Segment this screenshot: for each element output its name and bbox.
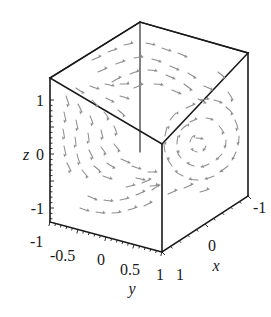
y-tick-label-minus1: -1	[30, 233, 43, 250]
vector-arrows-front-lower	[132, 166, 158, 186]
y-tick-label-0: 0	[97, 251, 105, 268]
x-tick-label-1: 1	[176, 266, 184, 283]
x-tick-label-0: 0	[208, 237, 216, 254]
z-tick-label-1: 1	[36, 92, 44, 109]
cube-vertical-edges	[50, 53, 248, 252]
y-tick-label-05: 0.5	[120, 261, 140, 278]
x-tick-label-minus1: -1	[253, 199, 266, 216]
edge-top-face-outline	[50, 22, 248, 144]
z-tick-label-0: 0	[36, 146, 44, 163]
z-tick-label-minus1: -1	[31, 200, 44, 217]
vector-arrows-right-face-vortex	[164, 97, 240, 181]
y-tick-label-1: 1	[156, 266, 164, 283]
vector-arrows-top-face	[92, 41, 233, 104]
y-axis-label: y	[126, 280, 136, 298]
vector-arrows-left-face	[62, 81, 130, 180]
y-tick-label-minus05: -0.5	[50, 247, 75, 264]
z-axis-label: z	[22, 146, 30, 163]
x-axis-label: x	[211, 257, 219, 274]
vector-field-3d-plot: 1 0 -1 z -1 -0.5 0 0.5 1 y 1 0 -1 x	[0, 0, 271, 317]
plot-canvas: 1 0 -1 z -1 -0.5 0 0.5 1 y 1 0 -1 x	[0, 0, 271, 317]
cube-top-face	[50, 22, 248, 144]
cube-back-edges	[50, 22, 248, 152]
vector-arrows-bottom-face	[80, 177, 209, 214]
cube-bottom-face	[50, 196, 248, 252]
x-axis-ticks	[162, 196, 251, 255]
